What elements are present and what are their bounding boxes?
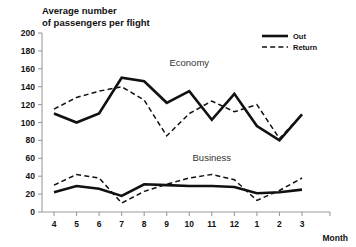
- x-tick-label: 12: [230, 219, 240, 229]
- y-tick-label: 20: [26, 189, 36, 199]
- y-tick-label: 60: [26, 153, 36, 163]
- y-tick-label: 160: [21, 64, 35, 74]
- y-axis: 020406080100120140160180200: [21, 28, 42, 217]
- y-tick-label: 120: [21, 100, 35, 110]
- legend-label-return: Return: [293, 43, 318, 52]
- x-tick-label: 10: [185, 219, 195, 229]
- annotation-business: Business: [193, 152, 232, 163]
- x-tick-label: 8: [142, 219, 147, 229]
- legend-label-out: Out: [293, 32, 306, 41]
- y-tick-label: 80: [26, 135, 36, 145]
- x-tick-label: 2: [277, 219, 282, 229]
- series-annotations: EconomyBusiness: [169, 57, 231, 163]
- x-axis-label: Month: [323, 233, 349, 243]
- chart-container: Average number of passengers per flight …: [0, 0, 356, 247]
- y-tick-label: 200: [21, 28, 35, 38]
- x-tick-label: 3: [300, 219, 305, 229]
- x-tick-label: 1: [255, 219, 260, 229]
- x-tick-label: 9: [164, 219, 169, 229]
- x-tick-label: 5: [74, 219, 79, 229]
- chart-title-line2: of passengers per flight: [42, 17, 151, 28]
- passenger-line-chart: Average number of passengers per flight …: [0, 0, 356, 247]
- chart-title-line1: Average number: [42, 5, 117, 16]
- data-series-group: [54, 78, 302, 203]
- series-line-economy-out: [54, 78, 302, 141]
- y-tick-label: 100: [21, 118, 35, 128]
- y-tick-label: 40: [26, 171, 36, 181]
- x-tick-label: 7: [119, 219, 124, 229]
- y-tick-label: 140: [21, 82, 35, 92]
- x-tick-label: 6: [97, 219, 102, 229]
- chart-legend: OutReturn: [262, 32, 318, 52]
- y-tick-label: 0: [30, 207, 35, 217]
- x-tick-label: 11: [207, 219, 216, 229]
- x-tick-label: 4: [52, 219, 57, 229]
- y-tick-label: 180: [21, 46, 35, 56]
- annotation-economy: Economy: [169, 57, 209, 68]
- x-axis: 456789101112123: [42, 212, 330, 229]
- series-line-business-out: [54, 184, 302, 196]
